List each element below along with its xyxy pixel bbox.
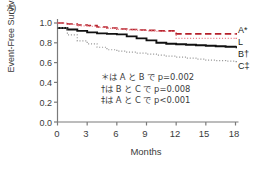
pvalue-note-ac: ‡は A と C で p<0.001 — [101, 95, 194, 107]
pvalue-note-ab: ＊は A と B で p=0.002 — [101, 72, 194, 84]
series-line-a — [58, 23, 236, 34]
pvalue-note-bc: †は B と C で p=0.008 — [101, 84, 194, 96]
figure-panel: A) Event-Free Survival 1.0 0.8 0.6 0.4 0… — [0, 0, 262, 169]
series-line-c — [58, 28, 236, 62]
curve-label-c: C‡ — [238, 62, 250, 71]
curve-label-l: L — [238, 38, 243, 47]
curve-label-b: B† — [238, 50, 249, 59]
pvalue-annotations: ＊は A と B で p=0.002 †は B と C で p=0.008 ‡は… — [101, 72, 194, 107]
curve-label-a: A* — [238, 26, 248, 35]
